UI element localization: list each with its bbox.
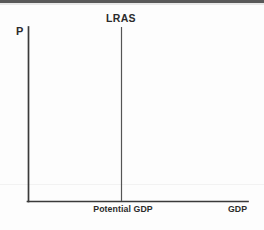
lras-diagram: P LRAS Potential GDP GDP: [0, 0, 264, 230]
y-axis-label: P: [16, 26, 24, 37]
lras-label: LRAS: [106, 13, 136, 24]
plot-area: [0, 0, 264, 230]
x-axis-label: GDP: [228, 204, 247, 214]
potential-gdp-label: Potential GDP: [93, 204, 152, 214]
